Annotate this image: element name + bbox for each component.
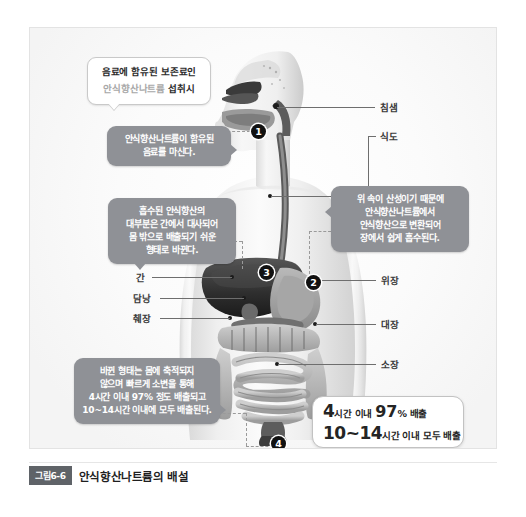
- result-percent-97: 97: [375, 402, 397, 421]
- callout-step-2-line-4: 장에서 쉽게 흡수된다.: [339, 232, 461, 245]
- result-hours-4-unit: 시간 이내: [334, 408, 375, 419]
- callout-step-4-line-3: 4시간 이내 97% 정도 배출되고: [82, 391, 212, 404]
- label-small-intestine: 소장: [381, 357, 398, 371]
- caption-text: 안식향산나트륨의 배설: [79, 468, 189, 484]
- marker-1: 1: [251, 124, 266, 139]
- callout-step-3: 흡수된 안식향산의 대부분은 간에서 대사되어 몸 밖으로 배출되기 쉬운 형태…: [108, 198, 236, 264]
- leader-liver: [152, 277, 232, 278]
- result-line-1-tail: 배출: [407, 408, 427, 419]
- callout-step-3-line-3: 몸 밖으로 배출되기 쉬운: [116, 231, 228, 244]
- result-line-2-tail: 시간 이내 모두 배출: [382, 430, 461, 441]
- callout-intro-tail: [108, 103, 120, 110]
- callout-step-1-line-1: 안식향산나트륨이 함유된: [115, 133, 223, 146]
- dashed-connector-step4-v: [246, 413, 247, 446]
- callout-step-1: 안식향산나트륨이 함유된 음료를 마신다.: [107, 126, 231, 166]
- caption-badge: 그림6-6: [29, 466, 72, 485]
- callout-step-4-line-2: 않으며 빠르게 소변을 통해: [82, 378, 212, 391]
- result-hours-4: 4: [323, 401, 334, 421]
- callout-step-4-tail: [219, 404, 226, 416]
- result-line-1: 4시간 이내 97% 배출: [323, 403, 463, 420]
- callout-intro-action: 섭취시: [165, 83, 195, 94]
- marker-2: 2: [306, 275, 321, 290]
- callout-step-2-line-2: 안식향산나트륨에서: [339, 206, 461, 219]
- result-percent-sign: %: [397, 408, 406, 419]
- callout-step-2-tail: [325, 206, 332, 218]
- leader-gallbladder: [160, 298, 244, 299]
- callout-step-3-line-4: 형태로 바뀐다.: [116, 244, 228, 257]
- callout-step-3-tail: [134, 263, 146, 270]
- result-line-2: 10~14시간 이내 모두 배출: [323, 425, 463, 442]
- excretion-result-box: 4시간 이내 97% 배출 10~14시간 이내 모두 배출: [312, 396, 464, 448]
- leader-salivary: [277, 107, 375, 108]
- transverse-colon: [218, 324, 320, 353]
- label-esophagus: 식도: [380, 129, 397, 143]
- leader-esophagus-top: [368, 136, 376, 137]
- callout-step-2: 위 속이 산성이기 때문에 안식향산나트륨에서 안식향산으로 변환되어 장에서 …: [331, 186, 469, 252]
- figure-root: 1 2 3 4 침샘 식도 위장 대장 소장 간 담낭 췌장 음료에 함유된 보…: [0, 0, 526, 517]
- callout-step-2-line-1: 위 속이 산성이기 때문에: [339, 193, 461, 206]
- dashed-connector-step2-v: [309, 231, 310, 279]
- callout-intro-substance: 안식향산나트륨: [103, 83, 165, 94]
- callout-step-1-line-2: 음료를 마신다.: [115, 146, 223, 159]
- label-large-intestine: 대장: [381, 317, 398, 331]
- dashed-connector-step2: [309, 231, 331, 232]
- leader-large-intestine: [316, 324, 376, 325]
- callout-intro: 음료에 함유된 보존료인 안식향산나트륨 섭취시: [87, 57, 211, 105]
- callout-step-3-line-2: 대부분은 간에서 대사되어: [116, 218, 228, 231]
- label-gallbladder: 담낭: [133, 291, 150, 305]
- caption-divider: [29, 462, 497, 463]
- leader-stomach: [314, 280, 376, 281]
- callout-step-3-line-1: 흡수된 안식향산의: [116, 205, 228, 218]
- result-hours-10-14: 10~14: [323, 423, 382, 443]
- callout-step-4-line-4: 10~14시간 이내에 모두 배출된다.: [82, 404, 212, 417]
- leader-pancreas: [160, 318, 230, 319]
- label-salivary-gland: 침샘: [380, 100, 397, 114]
- leader-small-intestine: [278, 364, 376, 365]
- figure-caption: 그림6-6 안식향산나트륨의 배설: [29, 466, 188, 485]
- dashed-connector-step3-v: [242, 241, 243, 269]
- label-stomach: 위장: [381, 273, 398, 287]
- callout-step-4-line-1: 바뀐 형태는 몸에 축적되지: [82, 365, 212, 378]
- marker-3: 3: [259, 265, 274, 280]
- callout-step-4: 바뀐 형태는 몸에 축적되지 않으며 빠르게 소변을 통해 4시간 이내 97%…: [74, 358, 220, 424]
- callout-intro-line1: 음료에 함유된 보존료인: [102, 66, 196, 77]
- figure-panel: 1 2 3 4 침샘 식도 위장 대장 소장 간 담낭 췌장 음료에 함유된 보…: [29, 27, 497, 449]
- callout-step-1-tail: [230, 144, 237, 156]
- callout-intro-line2: 안식향산나트륨 섭취시: [97, 82, 201, 96]
- label-liver: 간: [136, 270, 145, 284]
- marker-4: 4: [271, 436, 286, 449]
- callout-step-2-line-3: 안식향산으로 변환되어: [339, 219, 461, 232]
- label-pancreas: 췌장: [133, 311, 150, 325]
